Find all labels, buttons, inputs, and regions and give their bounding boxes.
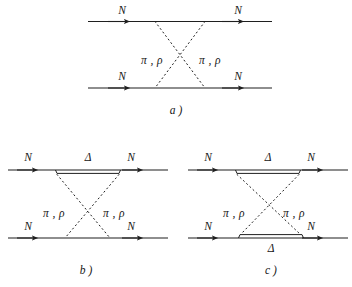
panel-b-meson-label-left: π , ρ xyxy=(43,208,65,220)
panel-c-top-left-nucleon-label: N xyxy=(204,152,212,164)
panel-c-meson-label-left: π , ρ xyxy=(223,208,245,220)
panel-b-bottom-left-nucleon-label: N xyxy=(24,221,32,233)
panel-c-bottom-left-nucleon-label: N xyxy=(204,221,212,233)
panel-b-bottom-right-nucleon-label: N xyxy=(127,221,135,233)
panel-a-top-left-nucleon-label: N xyxy=(118,5,126,17)
panel-a-top-right-nucleon-label: N xyxy=(234,5,242,17)
panel-c-meson-line-right xyxy=(241,175,299,235)
diagram-canvas xyxy=(0,0,352,287)
panel-a-bottom-left-nucleon-label: N xyxy=(118,71,126,83)
panel-c-meson-line-left xyxy=(237,175,300,235)
panel-a-meson-label-right: π , ρ xyxy=(199,55,221,67)
panel-c-top-right-nucleon-label: N xyxy=(307,152,315,164)
panel-b-delta-label: Δ xyxy=(85,152,92,164)
panel-b-caption: b ) xyxy=(80,265,92,277)
panel-a-meson-label-left: π , ρ xyxy=(141,55,163,67)
panel-b-top-left-nucleon-label: N xyxy=(24,152,32,164)
panel-c-top-delta-label: Δ xyxy=(265,152,272,164)
panel-a-bottom-right-nucleon-label: N xyxy=(234,71,242,83)
panel-b-top-right-nucleon-label: N xyxy=(127,152,135,164)
panel-c-caption: c ) xyxy=(265,265,277,277)
panel-c-meson-label-right: π , ρ xyxy=(283,208,305,220)
feynman-figure: N N N N π , ρ π , ρ a ) N Δ N π , ρ π , … xyxy=(0,0,352,287)
panel-c-bottom-delta-label: Δ xyxy=(268,243,275,255)
panel-c-bottom-right-nucleon-label: N xyxy=(307,221,315,233)
panel-a-graphics xyxy=(88,22,272,89)
panel-a-caption: a ) xyxy=(170,105,182,117)
panel-b-meson-label-right: π , ρ xyxy=(103,208,125,220)
